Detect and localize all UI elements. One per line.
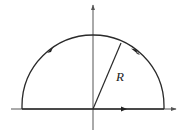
contour-diagram: R [0, 0, 184, 134]
radius-label: R [115, 69, 124, 84]
axis-arrow-icon [121, 107, 127, 112]
